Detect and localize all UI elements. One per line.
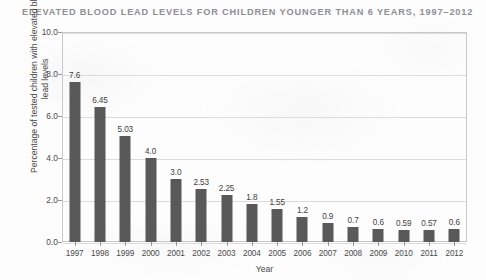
- bar-slot: 0.7: [340, 32, 365, 242]
- x-axis-tick-label: 2000: [142, 249, 160, 258]
- bar-value-label: 0.59: [396, 219, 412, 228]
- bar: [221, 195, 232, 242]
- bar-value-label: 1.55: [269, 198, 285, 207]
- bar-slot: 1.8: [239, 32, 264, 242]
- x-axis-tick-label: 2004: [243, 249, 261, 258]
- bar-value-label: 1.2: [297, 206, 308, 215]
- x-axis-tick-mark: [176, 242, 177, 246]
- bar-slot: 0.59: [391, 32, 416, 242]
- bar: [322, 223, 333, 242]
- x-axis-tick-mark: [328, 242, 329, 246]
- bar-value-label: 0.6: [449, 218, 460, 227]
- bar: [373, 229, 384, 242]
- x-axis-tick-label: 2007: [319, 249, 337, 258]
- bar-slot: 2.25: [214, 32, 239, 242]
- bar-slot: 5.03: [113, 32, 138, 242]
- bar-slot: 4.0: [138, 32, 163, 242]
- y-axis-tick-labels: 0.02.04.06.08.010.0: [28, 32, 58, 242]
- y-axis-tick-label: 0.0: [32, 237, 58, 247]
- bar-value-label: 7.6: [69, 71, 80, 80]
- x-axis-tick-mark: [100, 242, 101, 246]
- x-axis-tick-mark: [454, 242, 455, 246]
- x-axis-tick-mark: [353, 242, 354, 246]
- bar-value-label: 0.57: [421, 219, 437, 228]
- x-axis-tick-mark: [227, 242, 228, 246]
- x-axis-tick-mark: [125, 242, 126, 246]
- bar: [272, 209, 283, 242]
- x-axis-tick-label: 1998: [91, 249, 109, 258]
- bar-slot: 0.57: [416, 32, 441, 242]
- bar-slot: 2.53: [189, 32, 214, 242]
- bar: [348, 227, 359, 242]
- x-axis-tick-label: 2003: [218, 249, 236, 258]
- y-axis-tick-label: 4.0: [32, 153, 58, 163]
- bar: [246, 204, 257, 242]
- x-axis-tick-label: 2010: [395, 249, 413, 258]
- bar-slot: 0.6: [366, 32, 391, 242]
- bar-slot: 3.0: [163, 32, 188, 242]
- bar: [196, 189, 207, 242]
- x-axis-tick-mark: [151, 242, 152, 246]
- x-axis-tick-label: 1999: [116, 249, 134, 258]
- y-axis-tick-label: 2.0: [32, 195, 58, 205]
- x-axis-tick-mark: [277, 242, 278, 246]
- bar: [170, 179, 181, 242]
- bar-value-label: 6.45: [92, 96, 108, 105]
- y-axis-tick-label: 10.0: [32, 27, 58, 37]
- bar-series: 7.66.455.034.03.02.532.251.81.551.20.90.…: [62, 32, 467, 242]
- bar-value-label: 3.0: [170, 168, 181, 177]
- bar-value-label: 0.7: [348, 216, 359, 225]
- bar-slot: 1.55: [265, 32, 290, 242]
- x-axis-tick-label: 2012: [445, 249, 463, 258]
- x-axis-tick-label: 2008: [344, 249, 362, 258]
- y-axis-tick-label: 8.0: [32, 69, 58, 79]
- x-axis-tick-label: 2005: [268, 249, 286, 258]
- bar: [449, 229, 460, 242]
- x-axis-tick-mark: [201, 242, 202, 246]
- bar-value-label: 2.25: [219, 184, 235, 193]
- x-axis-tick-mark: [429, 242, 430, 246]
- x-axis-tick-label: 2001: [167, 249, 185, 258]
- y-axis-tick-label: 6.0: [32, 111, 58, 121]
- bar-value-label: 0.6: [373, 218, 384, 227]
- bar-value-label: 2.53: [193, 178, 209, 187]
- bar: [145, 158, 156, 242]
- x-axis-tick-label: 2002: [192, 249, 210, 258]
- bar-slot: 1.2: [290, 32, 315, 242]
- x-axis-tick-label: 1997: [66, 249, 84, 258]
- bar-value-label: 1.8: [246, 193, 257, 202]
- bar: [398, 230, 409, 242]
- x-axis-tick-mark: [378, 242, 379, 246]
- x-axis-tick-label: 2009: [369, 249, 387, 258]
- bar: [69, 82, 80, 242]
- bar: [94, 107, 105, 242]
- bar-slot: 7.6: [62, 32, 87, 242]
- x-axis-tick-mark: [75, 242, 76, 246]
- x-axis-title: Year: [62, 264, 467, 274]
- bar-value-label: 5.03: [118, 125, 134, 134]
- x-axis-tick-mark: [252, 242, 253, 246]
- bar-value-label: 0.9: [322, 212, 333, 221]
- x-axis-tick-labels: 1997199819992000200120022003200420052006…: [62, 249, 467, 263]
- bar: [297, 217, 308, 242]
- x-axis-tick-marks: [62, 242, 467, 247]
- y-axis-title-container: Percentage of tested children with eleva…: [0, 30, 24, 242]
- bar-slot: 6.45: [87, 32, 112, 242]
- chart-title: ELEVATED BLOOD LEAD LEVELS FOR CHILDREN …: [22, 7, 473, 17]
- x-axis-tick-label: 2011: [420, 249, 437, 258]
- x-axis-tick-mark: [404, 242, 405, 246]
- x-axis-tick-mark: [302, 242, 303, 246]
- bar: [120, 136, 131, 242]
- x-axis-tick-label: 2006: [294, 249, 312, 258]
- chart-page: ELEVATED BLOOD LEAD LEVELS FOR CHILDREN …: [0, 0, 486, 280]
- bar: [424, 230, 435, 242]
- bar-value-label: 4.0: [145, 147, 156, 156]
- bar-slot: 0.9: [315, 32, 340, 242]
- bar-slot: 0.6: [442, 32, 467, 242]
